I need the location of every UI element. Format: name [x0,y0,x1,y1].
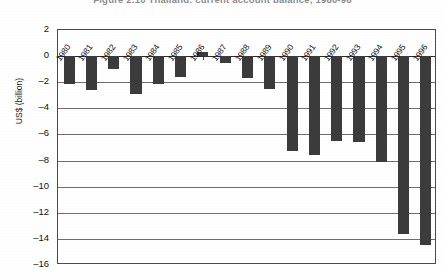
bar [86,56,97,90]
y-tick-label: –12 [33,207,49,216]
bar [353,56,364,142]
gridline [58,239,435,240]
bar [331,56,342,141]
figure-container: Figure 2.10 Thailand: current account ba… [0,0,445,273]
y-tick-label: –16 [33,259,49,268]
bar [398,56,409,234]
y-tick-label: –6 [38,128,49,137]
bar [130,56,141,94]
gridline [58,213,435,214]
y-tick-label: –10 [33,181,49,190]
bar [242,56,253,78]
y-tick-label: –4 [38,102,49,111]
bar [309,56,320,155]
bar [175,56,186,77]
figure-title: Figure 2.10 Thailand: current account ba… [0,0,445,6]
bar [153,56,164,83]
y-tick-label: –8 [38,155,49,164]
y-tick-label: –14 [33,233,49,242]
y-tick-label: –2 [38,76,49,85]
bar [287,56,298,151]
y-axis-tick-labels: –16–14–12–10–8–6–4–202 [0,0,57,273]
bar [420,56,431,245]
x-tickmark [203,56,204,60]
y-tick-label: 2 [44,24,49,33]
y-tick-label: 0 [44,50,49,59]
gridline [58,187,435,188]
bar [64,56,75,83]
bar [264,56,275,89]
plot-area [57,29,436,264]
bar [376,56,387,162]
